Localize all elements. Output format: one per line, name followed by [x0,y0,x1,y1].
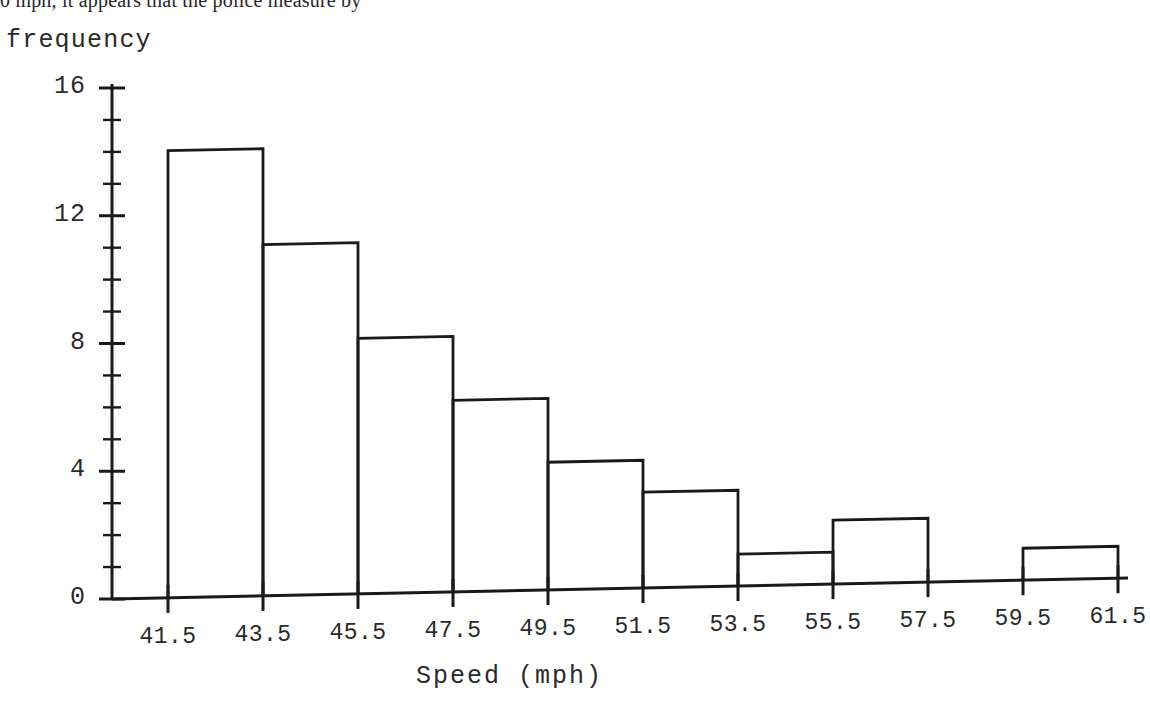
histogram-bar [263,243,358,596]
histogram-bar [643,490,738,588]
y-tick-label: 0 [20,583,86,612]
histogram-bar [548,460,643,590]
x-axis-title: Speed (mph) [0,662,1143,691]
histogram-bar [453,398,548,592]
y-tick-label: 8 [20,328,86,357]
histogram-bar [1023,546,1118,580]
histogram-bar [168,149,263,598]
histogram-bar [738,552,833,586]
y-tick-label: 16 [20,72,86,101]
y-tick-label: 4 [20,455,86,484]
x-axis-title-text: Speed (mph) [416,662,603,691]
histogram-bars [168,149,1118,598]
histogram-bar [358,336,453,593]
y-tick-label: 12 [20,200,86,229]
histogram-bar [833,518,928,584]
x-tick-label: 61.5 [1058,604,1150,630]
